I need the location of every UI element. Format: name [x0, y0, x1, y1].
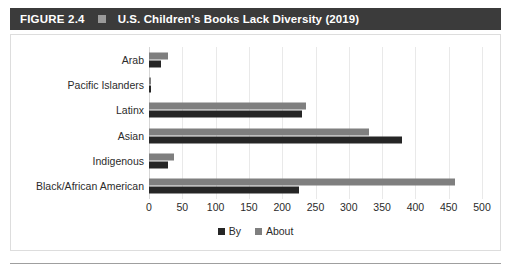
bar-about [149, 128, 369, 135]
legend-swatch-icon [255, 228, 262, 235]
category-row: Asian [149, 123, 482, 148]
bar-by [149, 111, 302, 118]
x-tick-label: 100 [207, 201, 225, 213]
x-tick-label: 0 [146, 201, 152, 213]
x-tick-label: 150 [240, 201, 258, 213]
legend-item-by[interactable]: By [218, 225, 241, 237]
x-tick-label: 350 [373, 201, 391, 213]
chart-legend: ByAbout [11, 225, 500, 237]
plot-area: ArabPacific IslandersLatinxAsianIndigeno… [149, 47, 482, 199]
figure-header: FIGURE 2.4 U.S. Children's Books Lack Di… [10, 8, 501, 30]
category-row: Arab [149, 47, 482, 72]
category-row: Latinx [149, 98, 482, 123]
square-icon [98, 15, 106, 23]
bar-about [149, 103, 306, 110]
bar-by [149, 60, 161, 67]
category-label: Latinx [116, 104, 144, 116]
figure-title: U.S. Children's Books Lack Diversity (20… [118, 13, 360, 25]
bar-group [149, 153, 482, 168]
bar-by [149, 187, 299, 194]
x-tick-label: 500 [473, 201, 491, 213]
category-row: Indigenous [149, 148, 482, 173]
category-label: Black/African American [36, 180, 144, 192]
bar-by [149, 85, 151, 92]
category-row: Black/African American [149, 174, 482, 199]
bottom-divider [10, 263, 501, 264]
bar-group [149, 103, 482, 118]
bar-about [149, 153, 174, 160]
legend-item-about[interactable]: About [255, 225, 293, 237]
gridline [482, 47, 483, 199]
bar-group [149, 77, 482, 92]
bar-group [149, 128, 482, 143]
legend-label: By [229, 225, 241, 237]
legend-swatch-icon [218, 228, 225, 235]
figure-number: FIGURE 2.4 [20, 13, 85, 25]
x-axis: 050100150200250300350400450500 [149, 201, 482, 217]
bar-about [149, 52, 168, 59]
bar-about [149, 179, 455, 186]
bar-about [149, 77, 151, 84]
category-label: Asian [118, 130, 144, 142]
x-tick-label: 300 [340, 201, 358, 213]
bar-group [149, 52, 482, 67]
x-tick-label: 250 [307, 201, 325, 213]
category-label: Arab [122, 54, 144, 66]
x-tick-label: 400 [407, 201, 425, 213]
x-tick-label: 50 [176, 201, 188, 213]
x-tick-label: 200 [273, 201, 291, 213]
bar-by [149, 161, 168, 168]
chart-panel: ArabPacific IslandersLatinxAsianIndigeno… [10, 34, 501, 251]
x-tick-label: 450 [440, 201, 458, 213]
bar-group [149, 179, 482, 194]
category-row: Pacific Islanders [149, 72, 482, 97]
legend-label: About [266, 225, 293, 237]
bar-by [149, 136, 402, 143]
category-label: Pacific Islanders [68, 79, 144, 91]
category-label: Indigenous [93, 155, 144, 167]
figure-container: FIGURE 2.4 U.S. Children's Books Lack Di… [0, 0, 511, 277]
